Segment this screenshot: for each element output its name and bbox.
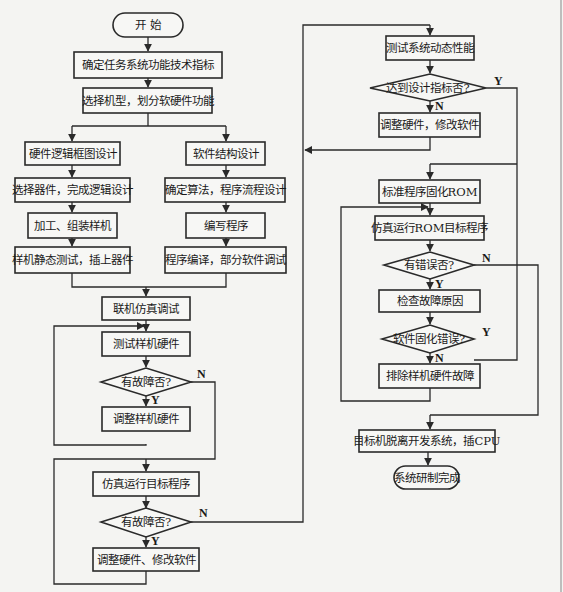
process-test-hw: 测试样机硬件 [102,332,190,356]
node-label: 确定任务系统功能技术指标 [82,58,214,72]
process-run-rom: 仿真运行ROM目标程序 [371,216,489,240]
process-hw-block: 硬件逻辑框图设计 [25,142,120,165]
no-label: N [435,351,444,365]
process-hw-select: 选择器件，完成逻辑设计 [12,178,134,202]
node-label: 确定算法，程序流程设计 [165,183,287,197]
process-sw-algo: 确定算法，程序流程设计 [165,178,287,202]
flowchart: 开 始 确定任务系统功能技术指标 选择机型，划分软硬件功能 硬件逻辑框图设计 选… [0,0,563,592]
node-label: 仿真运行目标程序 [102,477,190,491]
yes-label: Y [151,393,160,407]
decision-fault-1: 有故障否? N Y [101,367,206,407]
node-label: 有故障否? [121,515,171,529]
node-label: 调整硬件，修改软件 [380,118,479,132]
node-label: 测试样机硬件 [113,337,179,351]
process-sw-struct: 软件结构设计 [186,142,265,165]
yes-label: Y [151,534,160,548]
node-label: 编写程序 [204,219,248,233]
process-adjust-hw: 调整样机硬件 [102,407,190,431]
node-label: 仿真运行ROM目标程序 [371,221,489,235]
decision-burn-error: 软件固化错误? Y N [382,325,491,365]
no-label: N [482,251,491,265]
process-detach: 目标机脱离开发系统，插CPU [353,430,500,452]
end-label: 系统研制完成 [394,471,461,485]
yes-label: Y [435,277,444,291]
process-select-model: 选择机型，划分软硬件功能 [82,88,215,113]
process-adjust-hw-sw-2: 调整硬件，修改软件 [379,113,480,137]
node-label: 调整样机硬件 [113,412,179,426]
process-sw-write: 编写程序 [186,213,265,238]
process-adjust-hw-sw: 调整硬件、修改软件 [93,548,199,571]
node-label: 加工、组装样机 [34,219,112,233]
end-terminal: 系统研制完成 [394,466,461,489]
yes-label: Y [494,74,503,88]
process-check-cause: 检查故障原因 [379,290,480,312]
process-test-dynamic: 测试系统动态性能 [386,36,475,60]
node-label: 有错误否? [404,258,454,272]
no-label: N [197,367,206,381]
node-label: 排除样机硬件故障 [386,369,474,383]
process-hw-static: 样机静态测试，插上器件 [12,247,133,273]
node-label: 调整硬件、修改软件 [97,553,196,567]
no-label: N [435,99,444,113]
process-hw-build: 加工、组装样机 [28,213,117,238]
process-joint-sim: 联机仿真调试 [102,297,190,320]
no-label: N [199,506,208,520]
node-label: 硬件逻辑框图设计 [29,147,118,161]
node-label: 程序编译，部分软件调试 [165,253,287,267]
process-define-specs: 确定任务系统功能技术指标 [74,52,222,78]
decision-error: 有错误否? N Y [384,251,491,291]
process-run-target: 仿真运行目标程序 [93,472,199,496]
node-label: 样机静态测试，插上器件 [12,253,133,267]
node-label: 软件结构设计 [193,147,260,161]
node-label: 选择器件，完成逻辑设计 [12,183,134,197]
start-label: 开 始 [135,18,162,32]
node-label: 检查故障原因 [397,294,463,308]
node-label: 目标机脱离开发系统，插CPU [353,434,500,448]
decision-spec: 达到设计指标否? Y N [370,74,503,113]
node-label: 达到设计指标否? [386,81,469,95]
yes-label: Y [482,325,491,339]
node-label: 选择机型，划分软硬件功能 [82,94,215,108]
node-label: 软件固化错误? [393,332,465,346]
process-burn-rom: 标准程序固化ROM [379,180,480,203]
process-sw-compile: 程序编译，部分软件调试 [165,247,287,273]
node-label: 联机仿真调试 [113,302,180,316]
decision-fault-2: 有故障否? N Y [101,506,208,548]
node-label: 测试系统动态性能 [386,41,475,55]
start-terminal: 开 始 [113,13,183,37]
node-label: 标准程序固化ROM [382,185,478,199]
node-label: 有故障否? [121,375,171,389]
process-fix-hw: 排除样机硬件故障 [379,364,480,388]
